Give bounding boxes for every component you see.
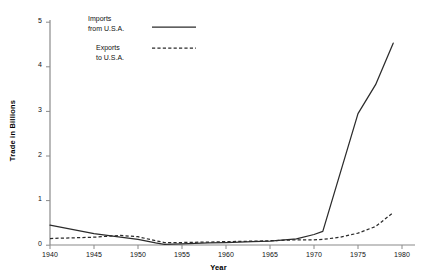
plot-area	[0, 0, 437, 279]
x-tick-label-1965: 1965	[252, 251, 288, 258]
legend-label-exports-line2: to U.S.A.	[96, 53, 124, 63]
y-axis-title: Trade in Billions	[8, 95, 17, 167]
x-tick-label-1960: 1960	[208, 251, 244, 258]
series-line-exports	[50, 213, 393, 243]
x-tick-label-1980: 1980	[384, 251, 420, 258]
legend-label-imports-line2: from U.S.A.	[88, 24, 124, 34]
x-tick-label-1945: 1945	[76, 251, 112, 258]
x-tick-label-1975: 1975	[340, 251, 376, 258]
legend-swatches	[152, 27, 196, 48]
y-tick-label-2: 2	[26, 151, 42, 158]
x-axis-title: Year	[0, 263, 437, 272]
y-tick-label-5: 5	[26, 17, 42, 24]
series-line-imports	[50, 43, 393, 244]
y-tick-label-3: 3	[26, 106, 42, 113]
x-tick-label-1950: 1950	[120, 251, 156, 258]
x-tick-label-1940: 1940	[32, 251, 68, 258]
legend-label-imports-line1: Imports	[88, 14, 124, 24]
y-tick-label-0: 0	[26, 240, 42, 247]
y-tick-label-1: 1	[26, 195, 42, 202]
trade-line-chart: Trade in Billions Year 5 4 3 2 1 0 1940 …	[0, 0, 437, 279]
legend-label-exports-line1: Exports	[96, 43, 124, 53]
x-axis-ticks	[50, 245, 402, 249]
y-tick-label-4: 4	[26, 61, 42, 68]
legend-label-imports: Imports from U.S.A.	[88, 14, 124, 33]
x-tick-label-1955: 1955	[164, 251, 200, 258]
legend-label-exports: Exports to U.S.A.	[96, 43, 124, 62]
x-tick-label-1970: 1970	[296, 251, 332, 258]
